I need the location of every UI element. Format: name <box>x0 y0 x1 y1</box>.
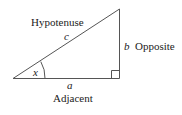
adjacent-label: Adjacent <box>53 92 93 104</box>
opposite-variable: b <box>124 40 130 52</box>
hypotenuse-variable: c <box>64 30 69 42</box>
angle-variable: x <box>32 66 38 78</box>
angle-arc <box>41 62 45 79</box>
opposite-label: Opposite <box>135 40 175 52</box>
adjacent-variable: a <box>67 79 73 91</box>
right-triangle-diagram: Hypotenuse c b Opposite x a Adjacent <box>0 0 182 115</box>
right-angle-marker <box>112 71 120 79</box>
hypotenuse-label: Hypotenuse <box>31 16 84 28</box>
